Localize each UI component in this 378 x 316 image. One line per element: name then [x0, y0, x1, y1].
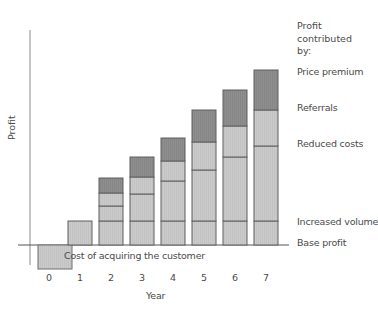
legend-reduced-costs: Reduced costs	[297, 138, 363, 150]
bar-segment	[130, 194, 154, 221]
bar-segment	[99, 178, 123, 193]
x-tick-4: 4	[170, 272, 176, 284]
legend-increased-volume: Increased volume	[297, 216, 378, 228]
x-tick-6: 6	[232, 272, 238, 284]
x-tick-1: 1	[77, 272, 83, 284]
bar-segment	[223, 126, 247, 157]
bar-segment	[99, 221, 123, 245]
legend-title: Profit contributed by:	[297, 20, 367, 58]
x-tick-7: 7	[263, 272, 269, 284]
bar-segment	[192, 110, 216, 142]
bar-segment	[192, 142, 216, 170]
bar-segment	[99, 206, 123, 221]
bar-segment	[223, 157, 247, 221]
bar-segment	[130, 177, 154, 194]
bar-segment	[161, 221, 185, 245]
bar-segment	[161, 181, 185, 221]
legend-referrals: Referrals	[297, 102, 337, 114]
x-tick-2: 2	[108, 272, 114, 284]
x-axis-label: Year	[146, 290, 165, 302]
bar-segment	[192, 170, 216, 221]
bar-segment	[161, 138, 185, 161]
bar-segment	[99, 193, 123, 206]
bars-group	[38, 70, 278, 269]
legend-price-premium: Price premium	[297, 66, 363, 78]
bar-segment	[161, 161, 185, 181]
bar-segment	[130, 157, 154, 177]
bar-segment	[192, 221, 216, 245]
y-axis-label: Profit	[6, 115, 17, 140]
legend-base-profit: Base profit	[297, 237, 346, 249]
cost-annotation: Cost of acquiring the customer	[64, 250, 205, 262]
bar-segment	[68, 221, 92, 245]
bar-segment	[223, 90, 247, 126]
x-tick-3: 3	[139, 272, 145, 284]
bar-segment	[254, 110, 278, 146]
x-tick-0: 0	[46, 272, 52, 284]
bar-segment	[254, 221, 278, 245]
bar-segment	[254, 70, 278, 110]
bar-segment	[223, 221, 247, 245]
x-tick-5: 5	[201, 272, 207, 284]
bar-segment	[254, 146, 278, 221]
bar-segment	[130, 221, 154, 245]
